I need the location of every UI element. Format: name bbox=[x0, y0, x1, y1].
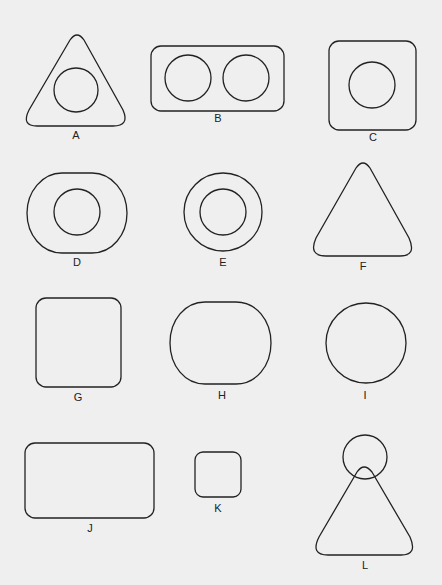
shape-i: I bbox=[326, 303, 406, 401]
label-d: D bbox=[73, 256, 81, 268]
rounded-triangle bbox=[316, 467, 413, 555]
shape-k: K bbox=[195, 452, 241, 514]
shape-f: F bbox=[314, 163, 412, 272]
top-circle bbox=[343, 435, 387, 479]
inner-circle bbox=[54, 68, 98, 112]
label-f: F bbox=[360, 260, 367, 272]
shape-c: C bbox=[329, 41, 416, 143]
label-e: E bbox=[219, 256, 226, 268]
shape-g: G bbox=[36, 298, 121, 403]
label-b: B bbox=[214, 112, 221, 124]
outer-circle bbox=[184, 173, 262, 251]
circle bbox=[326, 303, 406, 383]
rounded-rectangle bbox=[25, 443, 154, 518]
inner-circle bbox=[200, 189, 246, 235]
shape-d: D bbox=[27, 173, 127, 268]
rounded-square bbox=[329, 41, 416, 130]
shape-b: B bbox=[151, 46, 284, 124]
rounded-oval bbox=[27, 173, 127, 253]
rounded-square bbox=[36, 298, 121, 387]
inner-circle bbox=[54, 189, 100, 235]
label-i: I bbox=[363, 389, 366, 401]
rounded-triangle bbox=[314, 163, 412, 256]
shape-j: J bbox=[25, 443, 154, 534]
left-circle bbox=[165, 55, 211, 101]
label-j: J bbox=[87, 522, 93, 534]
rounded-rectangle bbox=[151, 46, 284, 111]
label-a: A bbox=[72, 129, 80, 141]
label-g: G bbox=[74, 391, 83, 403]
shape-l: L bbox=[316, 435, 413, 571]
shape-a: A bbox=[26, 35, 125, 141]
shape-e: E bbox=[184, 173, 262, 268]
shapes-figure: A B C D E F G H I bbox=[0, 0, 442, 585]
rounded-oval bbox=[170, 302, 271, 384]
small-rounded-square bbox=[195, 452, 241, 497]
label-k: K bbox=[214, 502, 222, 514]
label-h: H bbox=[218, 389, 226, 401]
right-circle bbox=[223, 55, 269, 101]
shape-h: H bbox=[170, 302, 271, 401]
label-l: L bbox=[362, 559, 368, 571]
label-c: C bbox=[369, 131, 377, 143]
inner-circle bbox=[349, 62, 395, 108]
